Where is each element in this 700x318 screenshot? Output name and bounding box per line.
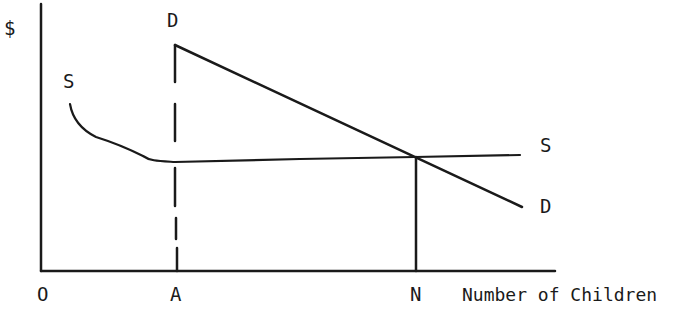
demand-curve [175, 45, 522, 207]
supply-curve [70, 104, 520, 162]
supply-demand-diagram: $ D S S D O A N Number of Children [0, 0, 700, 318]
n-marker-label: N [410, 283, 421, 305]
x-axis-label: Number of Children [462, 284, 657, 305]
supply-label-end: S [540, 134, 551, 156]
origin-label: O [37, 283, 48, 305]
demand-label-top: D [167, 9, 178, 31]
y-axis-label: $ [4, 17, 15, 39]
supply-label-start: S [63, 70, 74, 92]
demand-label-end: D [540, 195, 551, 217]
a-marker-label: A [170, 283, 182, 305]
